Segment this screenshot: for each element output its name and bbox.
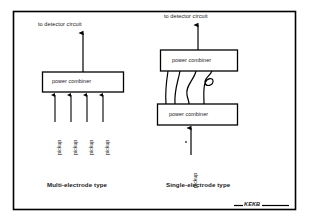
right-top-power-combiner-label: power combiner: [172, 58, 211, 63]
left-pickup-label-3: pickup: [89, 140, 94, 155]
figure-canvas: to detector circuit power combiner picku…: [0, 0, 309, 223]
kekb-logo: KEKB: [244, 202, 260, 208]
right-output-label: to detector circuit: [164, 14, 208, 20]
figure-border: [14, 12, 296, 210]
left-output-label: to detector circuit: [38, 22, 82, 28]
left-pickup-label-1: pickup: [57, 140, 62, 155]
right-panel-caption: Single-electrode type: [166, 182, 230, 188]
left-panel-caption: Multi-electrode type: [47, 182, 107, 188]
left-power-combiner-label: power combiner: [52, 79, 91, 84]
left-pickup-label-4: pickup: [105, 140, 110, 155]
diagram-vector-layer: [0, 0, 309, 223]
left-pickup-label-2: pickup: [73, 140, 78, 155]
right-bottom-power-combiner-label: power combiner: [169, 112, 208, 117]
